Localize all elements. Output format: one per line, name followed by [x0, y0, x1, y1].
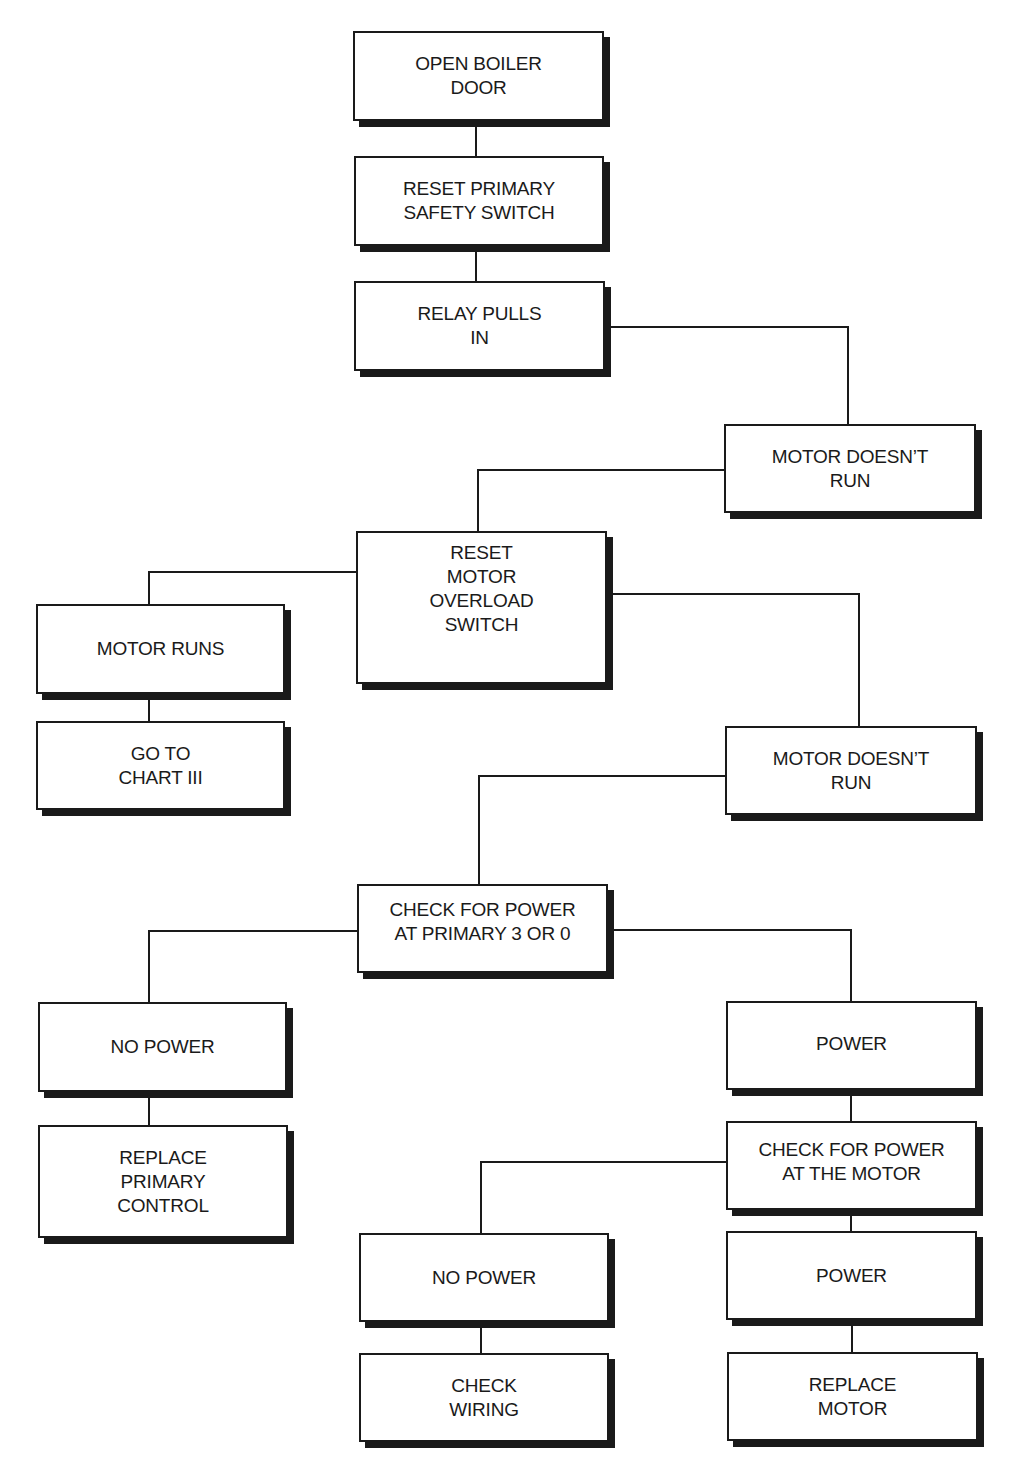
node-power-2: POWER	[726, 1231, 977, 1320]
edge-mdr2-to-check-primary-h	[478, 775, 726, 777]
edge-open-to-reset-primary	[475, 120, 477, 157]
edge-power-2-to-replace-motor	[851, 1320, 853, 1353]
edge-check-primary-to-no-power-1-v	[148, 930, 150, 1003]
edge-overload-to-mdr2-v	[858, 593, 860, 727]
edge-motor-runs-to-chart-iii	[148, 693, 150, 722]
edge-mdr1-to-reset-overload-v	[477, 469, 479, 532]
edge-no-power-2-to-check-wiring	[480, 1321, 482, 1354]
edge-check-primary-to-power-1-v	[850, 929, 852, 1002]
node-no-power-1: NO POWER	[38, 1002, 287, 1092]
node-no-power-2: NO POWER	[359, 1233, 609, 1322]
edge-reset-primary-to-relay	[475, 245, 477, 282]
edge-check-primary-to-no-power-1-h	[148, 930, 358, 932]
edge-relay-to-motor-doesnt-run-1-v	[847, 326, 849, 425]
node-go-to-chart-iii: GO TO CHART III	[36, 721, 285, 810]
node-reset-primary-safety-switch: RESET PRIMARY SAFETY SWITCH	[354, 156, 604, 246]
edge-no-power-1-to-replace-primary	[148, 1091, 150, 1126]
edge-check-primary-to-power-1-h	[608, 929, 852, 931]
node-relay-pulls-in: RELAY PULLS IN	[354, 281, 605, 371]
edge-overload-to-motor-runs-v	[148, 571, 150, 605]
node-replace-motor: REPLACE MOTOR	[727, 1352, 978, 1441]
node-check-power-motor: CHECK FOR POWER AT THE MOTOR	[726, 1121, 977, 1210]
node-open-boiler-door: OPEN BOILER DOOR	[353, 31, 604, 121]
edge-check-motor-to-power-2	[850, 1209, 852, 1232]
edge-mdr1-to-reset-overload-h	[477, 469, 725, 471]
node-check-power-primary: CHECK FOR POWER AT PRIMARY 3 OR 0	[357, 884, 608, 973]
edge-power-1-to-check-motor	[850, 1089, 852, 1122]
node-motor-runs: MOTOR RUNS	[36, 604, 285, 694]
node-power-1: POWER	[726, 1001, 977, 1090]
node-motor-doesnt-run-1: MOTOR DOESN’T RUN	[724, 424, 976, 513]
edge-relay-to-motor-doesnt-run-1-h	[605, 326, 849, 328]
node-check-wiring: CHECK WIRING	[359, 1353, 609, 1442]
edge-mdr2-to-check-primary-v	[478, 775, 480, 885]
edge-check-motor-to-no-power-2-h	[480, 1161, 727, 1163]
node-motor-doesnt-run-2: MOTOR DOESN’T RUN	[725, 726, 977, 815]
flowchart: OPEN BOILER DOOR RESET PRIMARY SAFETY SW…	[0, 0, 1012, 1476]
edge-check-motor-to-no-power-2-v	[480, 1161, 482, 1234]
edge-overload-to-motor-runs-h	[148, 571, 357, 573]
node-reset-motor-overload-switch: RESET MOTOR OVERLOAD SWITCH	[356, 531, 607, 684]
edge-overload-to-mdr2-h	[607, 593, 860, 595]
node-replace-primary-control: REPLACE PRIMARY CONTROL	[38, 1125, 288, 1238]
